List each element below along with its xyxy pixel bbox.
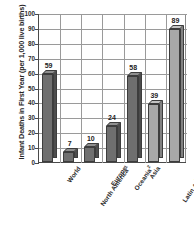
y-axis-tick-mark (35, 103, 39, 104)
gridline-horizontal (39, 103, 187, 104)
y-axis-tick-label: 80 (20, 41, 35, 47)
bar-side-face (53, 70, 57, 158)
bar (169, 25, 184, 162)
bar-value-label: 24 (101, 114, 124, 122)
bar (148, 100, 163, 162)
gridline-horizontal (39, 29, 187, 30)
y-axis-tick-mark (35, 29, 39, 30)
y-axis-tick-label: 0 (20, 160, 35, 166)
y-axis-tick-mark (35, 118, 39, 119)
bar-side-face (159, 100, 163, 158)
y-axis-tick-mark (35, 163, 39, 164)
y-axis-tick-label: 30 (20, 115, 35, 121)
x-axis-category-labels: WorldNorth America1EuropeOceania2AsiaLat… (38, 165, 194, 239)
bar-side-face (117, 122, 121, 158)
bar-side-face (180, 25, 184, 158)
gridline-vertical (145, 14, 146, 163)
x-axis-category-label: Latin Americaand theCaribbean (181, 165, 194, 212)
bar-value-label: 39 (143, 92, 166, 100)
bar-front-face (169, 29, 180, 162)
bar (127, 72, 142, 162)
y-axis-tick-mark (35, 148, 39, 149)
y-axis-tick-mark (35, 74, 39, 75)
x-axis-category-label: World (65, 165, 81, 184)
y-axis-tick-mark (35, 44, 39, 45)
y-axis-tick-label: 10 (20, 145, 35, 151)
bar-side-face (138, 72, 142, 158)
y-axis-tick-label: 90 (20, 26, 35, 32)
bar-chart: Infant Deaths in First Year (per 1,000 l… (0, 0, 194, 239)
bar-value-label: 7 (58, 140, 81, 148)
y-axis-tick-labels: 0102030405060708090100 (16, 0, 35, 239)
bar-front-face (148, 104, 159, 162)
gridline-vertical (102, 14, 103, 163)
y-axis-tick-label: 100 (20, 11, 35, 17)
bar-value-label: 58 (122, 64, 145, 72)
bar-front-face (63, 152, 74, 162)
gridline-horizontal (39, 59, 187, 60)
y-axis-tick-mark (35, 59, 39, 60)
y-axis-tick-label: 40 (20, 100, 35, 106)
y-axis-tick-label: 70 (20, 56, 35, 62)
bar-value-label: 59 (37, 62, 60, 70)
gridline-horizontal (39, 74, 187, 75)
gridline-vertical (166, 14, 167, 163)
bar (84, 143, 99, 162)
bar (63, 148, 78, 162)
bar-value-label: 10 (79, 135, 102, 143)
gridline-horizontal (39, 89, 187, 90)
y-axis-tick-mark (35, 14, 39, 15)
bar-front-face (106, 126, 117, 162)
gridline-vertical (124, 14, 125, 163)
bar (106, 122, 121, 162)
y-axis-tick-label: 50 (20, 86, 35, 92)
gridline-horizontal (39, 44, 187, 45)
bar-front-face (42, 74, 53, 162)
bar-front-face (127, 76, 138, 162)
y-axis-tick-mark (35, 133, 39, 134)
y-axis-tick-label: 20 (20, 130, 35, 136)
y-axis-tick-mark (35, 89, 39, 90)
bar-value-label: 89 (164, 17, 187, 25)
bar (42, 70, 57, 162)
bar-front-face (84, 147, 95, 162)
gridline-horizontal (39, 14, 187, 15)
y-axis-tick-label: 60 (20, 71, 35, 77)
